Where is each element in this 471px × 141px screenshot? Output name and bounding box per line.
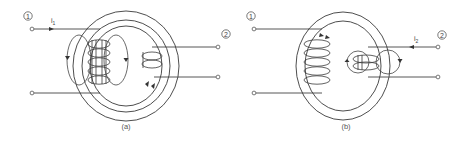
terminal-1b-bottom	[252, 91, 256, 95]
current-label-i1: i1	[51, 17, 56, 26]
coil-1b	[304, 40, 330, 84]
terminal-1a-top	[30, 27, 34, 31]
panel-b: 1	[247, 12, 446, 131]
terminal-1b-top	[252, 27, 256, 31]
panel-a: 1 i1	[24, 11, 230, 131]
svg-text:1: 1	[26, 13, 30, 20]
toroid-core-b	[296, 12, 390, 120]
svg-text:2: 2	[224, 31, 228, 38]
terminal-1a-bottom	[30, 91, 34, 95]
current-arrow-i1	[49, 27, 54, 31]
caption-b: (b)	[341, 122, 351, 131]
mutual-flux-arrow-b2	[325, 35, 330, 39]
coupled-coils-diagram: 1 i1	[0, 0, 471, 141]
port1-label-b: 1	[247, 12, 255, 20]
terminal-2b-top	[436, 45, 440, 49]
coil-2b	[353, 55, 379, 70]
caption-a: (a)	[121, 122, 131, 131]
current-arrow-i2	[409, 45, 414, 49]
port2-label-a: 2	[222, 30, 230, 38]
current-label-i2: i2	[414, 35, 419, 44]
toroid-core-a	[73, 11, 179, 121]
svg-text:1: 1	[249, 13, 253, 20]
mutual-flux-arrow-b1	[319, 33, 324, 37]
terminal-2a-top	[216, 45, 220, 49]
mutual-flux-arrow-a1	[145, 81, 149, 87]
coil-2a	[142, 52, 162, 68]
terminal-2b-bottom	[436, 75, 440, 79]
mutual-flux-arrow-a2	[151, 83, 155, 89]
terminal-2a-bottom	[216, 75, 220, 79]
svg-text:2: 2	[440, 32, 444, 39]
port2-label-b: 2	[438, 31, 446, 39]
port1-label-a: 1	[24, 12, 32, 20]
